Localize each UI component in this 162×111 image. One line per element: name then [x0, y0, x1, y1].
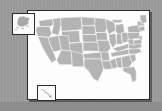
page-backdrop-footer-strip	[0, 102, 162, 111]
map-screenshot	[0, 0, 162, 111]
map-panel[interactable]	[27, 10, 150, 100]
alaska-inset[interactable]	[12, 13, 35, 35]
hawaii-inset[interactable]	[37, 85, 56, 101]
